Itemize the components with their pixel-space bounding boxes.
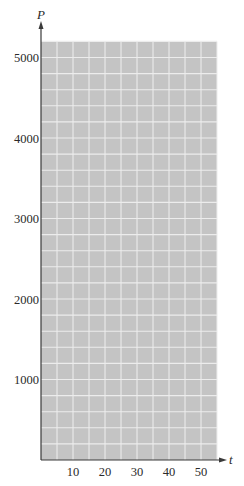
y-tick-label: 3000 [14,212,39,226]
y-tick-label: 4000 [14,132,39,146]
y-tick-label: 5000 [14,51,39,65]
y-axis-label: P [36,7,45,22]
x-tick-label: 50 [195,465,208,479]
y-tick-label: 1000 [14,373,39,387]
y-tick-labels: 10002000300040005000 [14,51,39,387]
x-tick-label: 20 [99,465,112,479]
x-tick-label: 30 [131,465,144,479]
x-axis-arrow-icon [219,458,227,463]
y-tick-label: 2000 [14,293,39,307]
y-axis-arrow-icon [39,21,44,29]
x-tick-label: 40 [163,465,176,479]
x-tick-label: 10 [67,465,80,479]
x-tick-labels: 1020304050 [67,465,208,479]
x-axis-label: t [229,452,233,467]
blank-graph-grid: 10002000300040005000 1020304050 P t [0,0,244,486]
